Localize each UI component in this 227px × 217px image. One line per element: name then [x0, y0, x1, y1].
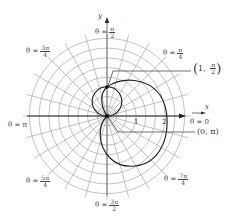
point-label-1-pi-over-2: ( 1, π2 )	[193, 62, 221, 75]
grid-ray	[85, 116, 107, 197]
tick-label-2: 2	[162, 118, 166, 126]
angle-label-5pi-over-4: θ = 5π4	[26, 175, 50, 188]
angle-label-3pi-over-2: θ = 3π2	[95, 199, 119, 212]
angle-prefix: θ =	[163, 50, 175, 57]
point-label-0-pi: (0, π)	[197, 127, 219, 136]
grid-ray	[65, 43, 107, 116]
grid-ray	[107, 74, 180, 116]
angle-label-7pi-over-4: θ = 7π4	[164, 173, 188, 186]
grid-ray	[26, 116, 107, 138]
grid-ray	[48, 116, 107, 175]
grid-ray	[107, 116, 188, 138]
angle-label-pi: θ = π	[8, 122, 27, 129]
fraction-denominator: 4	[43, 182, 47, 188]
grid-ray	[34, 74, 107, 116]
grid-ray	[107, 35, 129, 116]
angle-label-pi-over-2: θ = π2	[95, 26, 115, 39]
y-axis-arrow-icon	[105, 17, 109, 23]
x-label-arrowhead-icon	[201, 112, 206, 115]
fraction-denominator: 2	[110, 33, 114, 39]
close-paren: )	[216, 62, 221, 75]
comma: ,	[203, 64, 208, 73]
angle-prefix: θ =	[164, 176, 176, 183]
tick-label-1: 1	[134, 118, 138, 126]
fraction-denominator: 4	[178, 54, 182, 60]
grid-ray	[34, 116, 107, 158]
grid-ray	[107, 57, 166, 116]
angle-prefix: θ =	[26, 178, 38, 185]
angle-prefix: θ =	[95, 202, 107, 209]
angle-label-zero: θ = 0	[190, 119, 209, 126]
grid-ray	[48, 57, 107, 116]
fraction-denominator: 2	[211, 69, 215, 75]
fraction-denominator: 4	[181, 180, 185, 186]
grid-ray	[107, 116, 180, 158]
grid-ray	[107, 116, 149, 189]
x-axis-label: x	[205, 103, 209, 111]
angle-prefix: θ =	[26, 48, 38, 55]
grid-ray	[107, 116, 129, 197]
grid-ray	[26, 94, 107, 116]
grid-ray	[107, 94, 188, 116]
y-axis-label: y	[98, 12, 102, 20]
angle-label-pi-over-4: θ = π4	[163, 47, 183, 60]
fraction-denominator: 4	[43, 52, 47, 58]
angle-prefix: θ =	[95, 29, 107, 36]
grid-ray	[85, 35, 107, 116]
fraction-denominator: 2	[112, 206, 116, 212]
x-axis-arrow-icon	[179, 114, 186, 119]
angle-label-3pi-over-4: θ = 3π4	[26, 45, 50, 58]
